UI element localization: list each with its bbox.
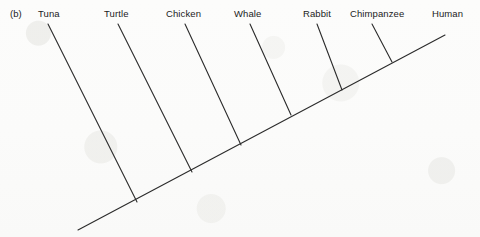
cladogram-figure: (b) TunaTurtleChickenWhaleRabbitChimpanz…: [0, 0, 480, 237]
branch-line-chicken: [185, 24, 241, 145]
branch-line-turtle: [118, 24, 192, 172]
branch-line-chimpanzee: [372, 24, 392, 62]
branch-line-tuna: [48, 24, 137, 202]
backbone-line: [78, 35, 445, 230]
tip-label-rabbit: Rabbit: [303, 8, 331, 19]
tip-label-chicken: Chicken: [166, 8, 201, 19]
tip-label-whale: Whale: [234, 8, 261, 19]
branch-line-rabbit: [317, 24, 342, 90]
cladogram-lines: [0, 0, 480, 237]
tip-label-chimpanzee: Chimpanzee: [350, 8, 404, 19]
tip-label-tuna: Tuna: [38, 8, 60, 19]
tip-label-human: Human: [432, 8, 463, 19]
panel-letter: (b): [10, 8, 22, 19]
branch-line-whale: [250, 24, 291, 115]
tip-label-turtle: Turtle: [104, 8, 129, 19]
